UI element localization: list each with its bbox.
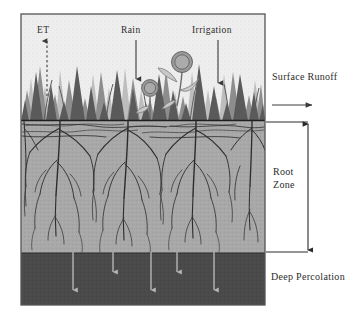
flower-large-head — [172, 52, 193, 73]
soil-water-balance-diagram: ET Rain Irrigation Surface Runoff Root Z… — [0, 0, 352, 322]
label-surface-runoff: Surface Runoff — [272, 71, 338, 82]
layer-deep-percolation-soil — [21, 253, 265, 305]
flower-small-head — [142, 80, 159, 97]
label-root-zone-line2: Zone — [273, 179, 295, 190]
label-root-zone-line1: Root — [273, 166, 294, 177]
label-irrigation: Irrigation — [192, 25, 232, 35]
figure-canvas: ET Rain Irrigation Surface Runoff Root Z… — [0, 0, 352, 322]
label-et: ET — [37, 25, 49, 35]
label-deep-percolation: Deep Percolation — [271, 271, 345, 282]
label-rain: Rain — [121, 25, 141, 35]
